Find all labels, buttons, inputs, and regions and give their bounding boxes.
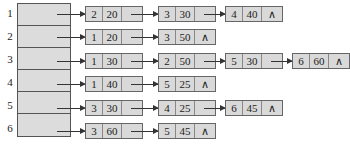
null-pointer-icon: ∧ <box>195 30 215 44</box>
vertex-label: 3 <box>6 53 14 65</box>
array-cell <box>18 92 70 114</box>
array-cell <box>18 114 70 136</box>
list-node: 4 40 ∧ <box>225 6 283 22</box>
pointer-arrow-icon <box>57 14 85 15</box>
node-weight: 30 <box>176 7 195 21</box>
node-adjvex: 1 <box>86 30 103 44</box>
node-adjvex: 4 <box>159 101 176 115</box>
vertex-label: 5 <box>6 99 14 111</box>
node-adjvex: 4 <box>226 7 243 21</box>
node-adjvex: 3 <box>86 101 103 115</box>
null-pointer-icon: ∧ <box>262 7 282 21</box>
pointer-arrow-icon <box>131 14 158 15</box>
node-weight: 30 <box>103 101 122 115</box>
node-adjvex: 3 <box>159 30 176 44</box>
node-adjvex: 5 <box>159 124 176 138</box>
node-weight: 50 <box>176 54 195 68</box>
vertex-array <box>17 3 71 137</box>
vertex-label: 1 <box>6 7 14 19</box>
node-adjvex: 3 <box>86 124 103 138</box>
list-node: 6 45 ∧ <box>225 100 283 116</box>
pointer-arrow-icon <box>204 108 225 109</box>
array-cell <box>18 4 70 26</box>
null-pointer-icon: ∧ <box>262 101 282 115</box>
node-weight: 20 <box>103 30 122 44</box>
pointer-arrow-icon <box>57 131 85 132</box>
node-weight: 20 <box>103 7 122 21</box>
null-pointer-icon: ∧ <box>195 77 215 91</box>
node-weight: 30 <box>103 54 122 68</box>
pointer-arrow-icon <box>57 108 85 109</box>
null-pointer-icon: ∧ <box>195 124 215 138</box>
node-adjvex: 5 <box>159 77 176 91</box>
pointer-arrow-icon <box>204 14 225 15</box>
list-node: 6 60 ∧ <box>292 53 350 69</box>
vertex-label: 2 <box>6 30 14 42</box>
node-weight: 30 <box>243 54 262 68</box>
list-node: 5 25 ∧ <box>158 76 216 92</box>
node-adjvex: 6 <box>226 101 243 115</box>
pointer-arrow-icon <box>131 108 158 109</box>
pointer-arrow-icon <box>57 84 85 85</box>
node-weight: 40 <box>103 77 122 91</box>
vertex-label: 6 <box>6 122 14 134</box>
list-node: 3 50 ∧ <box>158 29 216 45</box>
pointer-arrow-icon <box>131 37 158 38</box>
pointer-arrow-icon <box>57 37 85 38</box>
node-adjvex: 1 <box>86 77 103 91</box>
node-adjvex: 1 <box>86 54 103 68</box>
vertex-label: 4 <box>6 76 14 88</box>
node-adjvex: 2 <box>159 54 176 68</box>
node-adjvex: 6 <box>293 54 310 68</box>
list-node: 5 45 ∧ <box>158 123 216 139</box>
node-weight: 25 <box>176 77 195 91</box>
node-weight: 60 <box>103 124 122 138</box>
node-weight: 45 <box>243 101 262 115</box>
array-cell <box>18 70 70 92</box>
node-adjvex: 5 <box>226 54 243 68</box>
node-weight: 25 <box>176 101 195 115</box>
pointer-arrow-icon <box>271 61 292 62</box>
node-weight: 50 <box>176 30 195 44</box>
node-weight: 45 <box>176 124 195 138</box>
node-adjvex: 3 <box>159 7 176 21</box>
node-adjvex: 2 <box>86 7 103 21</box>
node-weight: 60 <box>310 54 329 68</box>
node-weight: 40 <box>243 7 262 21</box>
null-pointer-icon: ∧ <box>329 54 349 68</box>
pointer-arrow-icon <box>57 61 85 62</box>
pointer-arrow-icon <box>204 61 225 62</box>
pointer-arrow-icon <box>131 131 158 132</box>
array-cell <box>18 48 70 70</box>
pointer-arrow-icon <box>131 61 158 62</box>
pointer-arrow-icon <box>131 84 158 85</box>
